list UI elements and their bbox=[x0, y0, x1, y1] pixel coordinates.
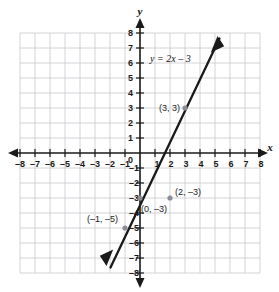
x-tick-label: 3 bbox=[183, 159, 188, 169]
y-tick-label: 6 bbox=[128, 58, 133, 68]
x-tick-label: 6 bbox=[228, 159, 233, 169]
y-tick-label: 4 bbox=[128, 88, 133, 98]
y-tick-label: 2 bbox=[128, 118, 133, 128]
x-tick-label: –3 bbox=[90, 159, 100, 169]
y-tick-label: –2 bbox=[129, 178, 139, 188]
equation-label: y = 2x – 3 bbox=[149, 53, 191, 64]
x-tick-label: 7 bbox=[243, 159, 248, 169]
point-label-0-neg3: (0, –3) bbox=[141, 204, 167, 214]
point-label-neg1-neg5: (–1, –5) bbox=[87, 214, 118, 224]
y-axis-label: y bbox=[136, 5, 143, 17]
x-tick-label: 8 bbox=[258, 159, 263, 169]
origin-label: 0 bbox=[128, 155, 133, 165]
coordinate-plane-figure: –8 –7 –6 –5 –4 –3 –2 –1 1 2 3 4 5 6 7 8 … bbox=[0, 0, 279, 292]
y-tick-label: –7 bbox=[129, 253, 139, 263]
x-tick-label: –7 bbox=[30, 159, 40, 169]
x-tick-label: 4 bbox=[198, 159, 203, 169]
x-tick-label: 2 bbox=[168, 159, 173, 169]
graph-svg: –8 –7 –6 –5 –4 –3 –2 –1 1 2 3 4 5 6 7 8 … bbox=[0, 0, 279, 292]
point-marker-neg1-neg5 bbox=[122, 225, 127, 230]
y-tick-label: 7 bbox=[128, 43, 133, 53]
y-tick-label: –6 bbox=[129, 238, 139, 248]
y-tick-label: 3 bbox=[128, 103, 133, 113]
point-label-3-3: (3, 3) bbox=[159, 103, 180, 113]
x-tick-label: –6 bbox=[45, 159, 55, 169]
x-tick-label: 5 bbox=[213, 159, 218, 169]
point-label-2-neg3: (2, –3) bbox=[175, 187, 201, 197]
point-marker-2-neg3 bbox=[167, 195, 172, 200]
x-tick-label: –8 bbox=[15, 159, 25, 169]
x-tick-label: –5 bbox=[60, 159, 70, 169]
x-tick-label: –2 bbox=[105, 159, 115, 169]
y-tick-label: 5 bbox=[128, 73, 133, 83]
y-tick-label: 1 bbox=[128, 133, 133, 143]
y-tick-label: 8 bbox=[128, 28, 133, 38]
point-marker-3-3 bbox=[182, 105, 187, 110]
point-marker-0-neg3 bbox=[137, 195, 142, 200]
x-axis-label: x bbox=[266, 141, 273, 153]
y-tick-label: –8 bbox=[129, 268, 139, 278]
x-tick-label: –4 bbox=[75, 159, 85, 169]
